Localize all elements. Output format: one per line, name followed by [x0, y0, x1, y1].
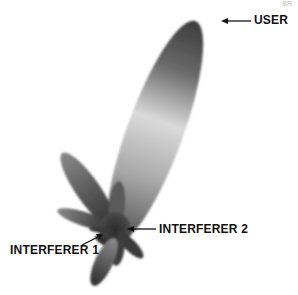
- interferer-1-label: INTERFERER 1: [10, 244, 99, 257]
- interferer-2-label: INTERFERER 2: [159, 223, 248, 236]
- user-label: USER: [254, 14, 288, 27]
- page-marker: BR: [282, 0, 292, 7]
- user-arrowhead: [221, 18, 228, 24]
